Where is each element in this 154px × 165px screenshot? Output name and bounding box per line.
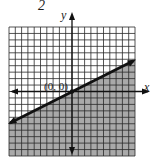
- x-axis-label: x: [144, 80, 149, 95]
- y-axis-label: y: [61, 8, 66, 23]
- origin-label: (0, 0): [44, 80, 68, 92]
- origin-point: [70, 89, 74, 93]
- graph: [0, 0, 154, 165]
